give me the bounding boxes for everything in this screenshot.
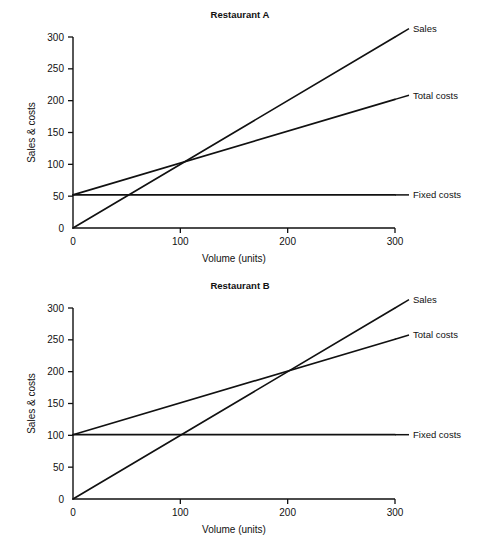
x-tick-label: 200 [279, 236, 296, 247]
y-tick-label: 0 [58, 494, 64, 505]
series-leader-total-costs [395, 335, 409, 339]
y-tick-label: 200 [47, 95, 64, 106]
x-tick-label: 300 [387, 236, 404, 247]
y-tick-label: 0 [58, 223, 64, 234]
chart-restaurant-b: Restaurant B0501001502002503000100200300… [0, 271, 489, 543]
series-line-sales [73, 37, 395, 228]
x-tick-label: 100 [172, 236, 189, 247]
series-label-total-costs: Total costs [413, 90, 458, 101]
series-label-fixed-costs: Fixed costs [413, 189, 461, 200]
series-leader-sales [395, 29, 409, 37]
x-tick-label: 100 [172, 507, 189, 518]
y-tick-label: 50 [53, 462, 65, 473]
chart-title: Restaurant B [210, 280, 269, 291]
series-leader-total-costs [395, 95, 409, 99]
x-axis-label: Volume (units) [202, 253, 266, 264]
y-tick-label: 150 [47, 398, 64, 409]
x-tick-label: 0 [70, 507, 76, 518]
series-label-sales: Sales [413, 294, 437, 305]
y-tick-label: 200 [47, 366, 64, 377]
x-tick-label: 300 [387, 507, 404, 518]
y-axis-ticks: 050100150200250300 [47, 32, 73, 234]
series-label-sales: Sales [413, 23, 437, 34]
y-tick-label: 100 [47, 159, 64, 170]
series-line-total-costs [73, 339, 395, 435]
y-axis-label: Sales & costs [26, 373, 37, 434]
x-axis-ticks: 0100200300 [70, 499, 404, 518]
series-leader-sales [395, 300, 409, 308]
chart-canvas-restaurant-a: Restaurant A0501001502002503000100200300… [0, 0, 489, 271]
y-axis-label: Sales & costs [26, 102, 37, 163]
y-tick-label: 250 [47, 63, 64, 74]
x-tick-label: 200 [279, 507, 296, 518]
y-tick-label: 50 [53, 191, 65, 202]
y-tick-label: 250 [47, 334, 64, 345]
y-axis-ticks: 050100150200250300 [47, 303, 73, 505]
y-tick-label: 150 [47, 127, 64, 138]
chart-title: Restaurant A [211, 9, 270, 20]
y-tick-label: 300 [47, 303, 64, 314]
y-tick-label: 100 [47, 430, 64, 441]
x-tick-label: 0 [70, 236, 76, 247]
series-line-total-costs [73, 99, 395, 194]
series-label-total-costs: Total costs [413, 329, 458, 340]
series-label-fixed-costs: Fixed costs [413, 429, 461, 440]
x-axis-label: Volume (units) [202, 524, 266, 535]
x-axis-ticks: 0100200300 [70, 228, 404, 247]
y-tick-label: 300 [47, 32, 64, 43]
chart-canvas-restaurant-b: Restaurant B0501001502002503000100200300… [0, 271, 489, 543]
series-line-sales [73, 308, 395, 499]
chart-restaurant-a: Restaurant A0501001502002503000100200300… [0, 0, 489, 271]
